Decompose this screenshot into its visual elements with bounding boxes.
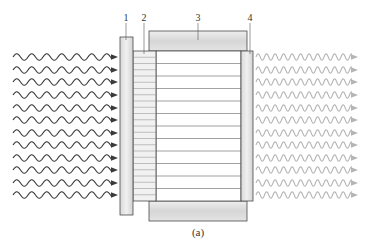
label-1: 1 (124, 12, 129, 40)
outgoing-wave (256, 142, 352, 148)
outgoing-wave (256, 67, 352, 73)
incoming-wave (13, 79, 112, 85)
outgoing-wave (256, 54, 352, 60)
label-2-text: 2 (142, 12, 147, 23)
component-4-plate (241, 51, 253, 201)
incoming-wave (13, 180, 112, 186)
arrowhead-icon (111, 142, 118, 148)
outgoing-wave (256, 79, 352, 85)
outgoing-wave (256, 155, 352, 161)
arrowhead-icon (111, 155, 118, 161)
figure-caption: (a) (192, 226, 205, 239)
arrowhead-icon (351, 192, 358, 198)
component-3-bottom-bar (149, 201, 247, 221)
arrowhead-icon (111, 54, 118, 60)
incoming-wave (13, 117, 112, 123)
arrowhead-icon (351, 67, 358, 73)
incoming-wave (13, 142, 112, 148)
incoming-wave (13, 192, 112, 198)
diagram-canvas: 1 2 3 4 (a) (0, 0, 369, 250)
label-2: 2 (142, 12, 147, 54)
outgoing-wave (256, 192, 352, 198)
incoming-wave (13, 155, 112, 161)
incoming-wave (13, 130, 112, 136)
label-1-text: 1 (124, 12, 129, 23)
arrowhead-icon (111, 67, 118, 73)
arrowhead-icon (351, 180, 358, 186)
arrowhead-icon (111, 167, 118, 173)
outgoing-wave (256, 105, 352, 111)
incoming-wave (13, 67, 112, 73)
outgoing-radiation-waves (256, 54, 358, 198)
arrowhead-icon (111, 192, 118, 198)
arrowhead-icon (111, 92, 118, 98)
incoming-wave (13, 92, 112, 98)
label-3-text: 3 (196, 12, 201, 23)
arrowhead-icon (111, 130, 118, 136)
arrowhead-icon (111, 180, 118, 186)
arrowhead-icon (111, 105, 118, 111)
arrowhead-icon (111, 117, 118, 123)
outgoing-wave (256, 167, 352, 173)
arrowhead-icon (351, 79, 358, 85)
label-4: 4 (248, 12, 253, 54)
outgoing-wave (256, 180, 352, 186)
arrowhead-icon (351, 117, 358, 123)
incoming-wave (13, 54, 112, 60)
incoming-wave (13, 167, 112, 173)
arrowhead-icon (351, 142, 358, 148)
arrowhead-icon (111, 79, 118, 85)
incoming-radiation-waves (13, 54, 118, 198)
arrowhead-icon (351, 155, 358, 161)
arrowhead-icon (351, 130, 358, 136)
outgoing-wave (256, 130, 352, 136)
arrowhead-icon (351, 92, 358, 98)
arrowhead-icon (351, 54, 358, 60)
arrowhead-icon (351, 167, 358, 173)
outgoing-wave (256, 117, 352, 123)
component-1-plate (120, 37, 133, 215)
arrowhead-icon (351, 105, 358, 111)
outgoing-wave (256, 92, 352, 98)
incoming-wave (13, 105, 112, 111)
label-4-text: 4 (248, 12, 253, 23)
